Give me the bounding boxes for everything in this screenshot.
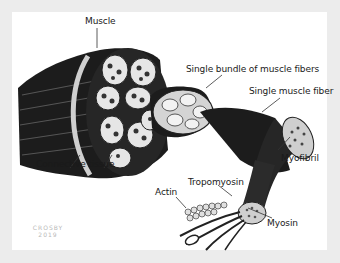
signature-name: CROSBY <box>30 224 66 231</box>
myofibril <box>238 160 275 224</box>
label-myofibril: Myofibril <box>281 153 319 163</box>
label-connective-tissue: Connective tissue <box>36 159 114 169</box>
signature-year: 2019 <box>30 231 66 238</box>
label-single-fiber: Single muscle fiber <box>249 86 333 96</box>
label-muscle: Muscle <box>85 16 116 26</box>
artist-signature: CROSBY 2019 <box>30 224 66 238</box>
label-tropomyosin: Tropomyosin <box>188 177 244 187</box>
filaments <box>180 202 246 250</box>
label-actin: Actin <box>155 187 177 197</box>
label-single-bundle: Single bundle of muscle fibers <box>186 64 319 74</box>
label-myosin: Myosin <box>267 218 298 228</box>
